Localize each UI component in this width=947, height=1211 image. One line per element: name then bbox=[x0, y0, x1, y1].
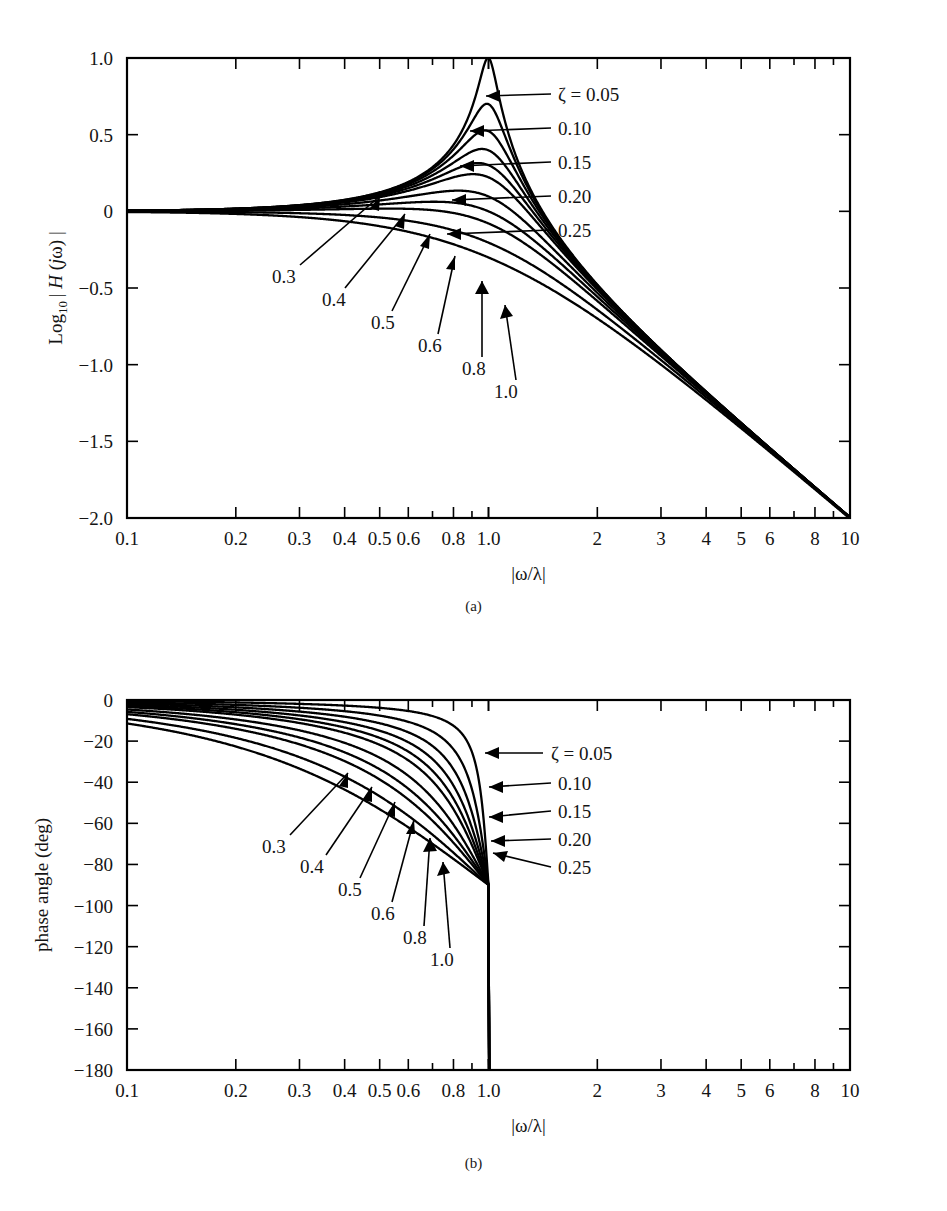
x-tick-label: 2 bbox=[593, 528, 603, 549]
leader-line bbox=[290, 773, 348, 835]
x-tick-label: 3 bbox=[656, 528, 666, 549]
curve-label-0.8: 0.8 bbox=[462, 358, 486, 379]
y-tick-label: −2.0 bbox=[79, 508, 113, 529]
phase-plot-panel: 0.10.20.30.40.50.60.81.0234568100−20−40−… bbox=[0, 640, 947, 1211]
y-tick-label: −60 bbox=[83, 813, 113, 834]
x-tick-label: 8 bbox=[810, 528, 820, 549]
plot-frame bbox=[127, 58, 850, 518]
y-tick-label: −1.0 bbox=[79, 355, 113, 376]
x-tick-label: 0.1 bbox=[115, 528, 139, 549]
y-tick-label: 0 bbox=[104, 690, 114, 711]
x-tick-label: 2 bbox=[593, 1080, 603, 1101]
x-tick-label: 1.0 bbox=[477, 1080, 501, 1101]
curve-label-0.3: 0.3 bbox=[262, 836, 286, 857]
x-tick-label: 0.6 bbox=[396, 1080, 420, 1101]
curve-zeta-0.15 bbox=[127, 130, 850, 517]
x-tick-label: 0.3 bbox=[288, 1080, 312, 1101]
leader-arrowhead bbox=[395, 214, 405, 229]
leader-line bbox=[443, 862, 450, 948]
x-tick-label: 0.4 bbox=[333, 528, 357, 549]
curve-zeta-1.0 bbox=[127, 212, 850, 519]
curve-zeta-0.25 bbox=[127, 163, 850, 517]
curve-label-1.0: 1.0 bbox=[494, 381, 518, 402]
curve-label-0.15: 0.15 bbox=[558, 152, 591, 173]
magnitude-plot-svg: 0.10.20.30.40.50.60.81.0234568101.00.50−… bbox=[0, 0, 947, 640]
y-tick-label: −20 bbox=[83, 731, 113, 752]
curve-label-1.0: 1.0 bbox=[430, 949, 454, 970]
y-tick-label: −1.5 bbox=[79, 431, 113, 452]
y-tick-label: 0 bbox=[104, 201, 114, 222]
x-tick-label: 0.6 bbox=[396, 528, 420, 549]
caption-b: (b) bbox=[0, 1155, 947, 1172]
y-tick-label: −140 bbox=[74, 978, 113, 999]
curve-label-0.25: 0.25 bbox=[558, 857, 591, 878]
curve-label-0.10: 0.10 bbox=[558, 773, 591, 794]
x-tick-label: 4 bbox=[701, 528, 711, 549]
curve-zeta-0.05 bbox=[127, 58, 850, 517]
x-tick-label: 0.3 bbox=[288, 528, 312, 549]
magnitude-plot-panel: 0.10.20.30.40.50.60.81.0234568101.00.50−… bbox=[0, 0, 947, 640]
curve-zeta-0.20 bbox=[127, 149, 850, 517]
leader-arrowhead bbox=[470, 125, 484, 137]
leader-arrowhead bbox=[489, 811, 503, 823]
curve-label-0.05: ζ = 0.05 bbox=[551, 743, 612, 764]
y-tick-label: 1.0 bbox=[89, 48, 113, 69]
curve-label-0.10: 0.10 bbox=[558, 118, 591, 139]
caption-a: (a) bbox=[0, 598, 947, 615]
leader-arrowhead bbox=[485, 747, 499, 759]
x-tick-label: 5 bbox=[736, 1080, 746, 1101]
x-tick-label: 0.5 bbox=[368, 1080, 392, 1101]
bode-plot-figure: 0.10.20.30.40.50.60.81.0234568101.00.50−… bbox=[0, 0, 947, 1211]
leader-arrowhead bbox=[475, 281, 489, 294]
y-axis-title: phase angle (deg) bbox=[31, 818, 53, 952]
curve-label-0.5: 0.5 bbox=[338, 879, 362, 900]
x-tick-label: 0.5 bbox=[368, 528, 392, 549]
x-tick-label: 10 bbox=[841, 528, 860, 549]
y-tick-label: −180 bbox=[74, 1060, 113, 1081]
y-tick-label: −80 bbox=[83, 854, 113, 875]
x-axis-title: |ω/λ| bbox=[511, 1115, 546, 1136]
x-tick-label: 6 bbox=[765, 528, 775, 549]
x-tick-label: 5 bbox=[736, 528, 746, 549]
curve-zeta-0.6 bbox=[127, 209, 850, 518]
curve-label-0.4: 0.4 bbox=[300, 856, 324, 877]
x-tick-label: 8 bbox=[810, 1080, 820, 1101]
curve-label-0.3: 0.3 bbox=[272, 266, 296, 287]
x-tick-label: 0.8 bbox=[442, 1080, 466, 1101]
curve-label-0.20: 0.20 bbox=[558, 186, 591, 207]
y-axis-title: Log10 | H (jω) | bbox=[45, 231, 70, 344]
x-tick-label: 4 bbox=[701, 1080, 711, 1101]
y-tick-label: −160 bbox=[74, 1019, 113, 1040]
curve-label-0.15: 0.15 bbox=[558, 801, 591, 822]
x-tick-label: 0.1 bbox=[115, 1080, 139, 1101]
y-tick-label: −100 bbox=[74, 896, 113, 917]
x-tick-label: 1.0 bbox=[477, 528, 501, 549]
curve-zeta-0.3 bbox=[127, 174, 850, 517]
leader-arrowhead bbox=[493, 851, 508, 862]
leader-arrowhead bbox=[500, 305, 513, 319]
curve-label-0.6: 0.6 bbox=[418, 335, 442, 356]
x-tick-label: 0.2 bbox=[224, 1080, 248, 1101]
y-tick-label: 0.5 bbox=[89, 125, 113, 146]
curve-label-0.05: ζ = 0.05 bbox=[558, 84, 619, 105]
leader-arrowhead bbox=[446, 256, 455, 270]
leader-arrowhead bbox=[437, 862, 450, 876]
x-tick-label: 0.8 bbox=[442, 528, 466, 549]
leader-arrowhead bbox=[489, 781, 503, 793]
x-tick-label: 10 bbox=[841, 1080, 860, 1101]
curve-zeta-1.0 bbox=[127, 723, 850, 1110]
curve-label-0.20: 0.20 bbox=[558, 829, 591, 850]
leader-arrowhead bbox=[486, 90, 500, 102]
curve-zeta-0.4 bbox=[127, 191, 850, 518]
leader-arrowhead bbox=[491, 835, 505, 847]
phase-plot-svg: 0.10.20.30.40.50.60.81.0234568100−20−40−… bbox=[0, 640, 947, 1211]
y-tick-label: −40 bbox=[83, 772, 113, 793]
curve-label-0.6: 0.6 bbox=[371, 903, 395, 924]
curve-zeta-0.5 bbox=[127, 202, 850, 518]
x-tick-label: 3 bbox=[656, 1080, 666, 1101]
x-tick-label: 6 bbox=[765, 1080, 775, 1101]
x-tick-label: 0.4 bbox=[333, 1080, 357, 1101]
curve-label-0.4: 0.4 bbox=[322, 289, 346, 310]
x-axis-title: |ω/λ| bbox=[511, 563, 546, 584]
curve-label-0.5: 0.5 bbox=[371, 312, 395, 333]
